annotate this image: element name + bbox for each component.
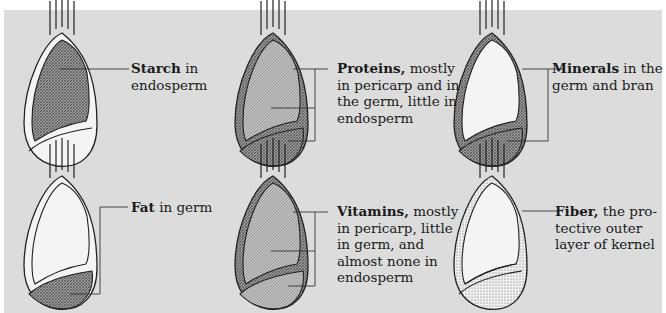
label-proteins-bold: Proteins, — [337, 60, 405, 76]
label-starch-bold: Starch — [131, 60, 181, 76]
label-fat-bold: Fat — [131, 199, 155, 215]
label-fiber-line: tective outer — [555, 220, 642, 236]
label-starch: Starch in endosperm — [131, 60, 207, 93]
label-starch-line: in — [181, 60, 198, 76]
label-minerals: Minerals in the germ and bran — [552, 60, 663, 93]
label-minerals-line: in the — [619, 60, 663, 76]
label-fat: Fat in germ — [131, 199, 212, 216]
label-vitamins-line: mostly — [409, 203, 459, 219]
label-starch-line: endosperm — [131, 77, 207, 93]
kernel-proteins — [235, 0, 328, 166]
label-vitamins-line: in germ, and — [337, 236, 424, 252]
label-minerals-bold: Minerals — [552, 60, 619, 76]
label-proteins-line: endosperm — [337, 110, 413, 126]
label-proteins-line: in pericarp and in — [337, 77, 459, 93]
kernel-starch — [24, 0, 129, 166]
label-vitamins-bold: Vitamins, — [337, 203, 409, 219]
label-fiber-line: layer of kernel — [555, 236, 655, 252]
label-fiber-line: the pro- — [599, 203, 657, 219]
label-vitamins-line: in pericarp, little — [337, 220, 453, 236]
label-vitamins: Vitamins, mostly in pericarp, little in … — [337, 203, 458, 286]
label-vitamins-line: endosperm — [337, 269, 413, 285]
kernel-minerals — [454, 0, 564, 166]
label-fiber-bold: Fiber, — [555, 203, 599, 219]
label-vitamins-line: almost none in — [337, 253, 438, 269]
label-fiber: Fiber, the pro- tective outer layer of k… — [555, 203, 657, 253]
kernel-diagrams — [0, 0, 666, 313]
label-fat-line: in germ — [155, 199, 212, 215]
label-proteins-line: mostly — [405, 60, 455, 76]
label-minerals-line: germ and bran — [552, 77, 654, 93]
label-proteins: Proteins, mostly in pericarp and in the … — [337, 60, 459, 126]
label-proteins-line: the germ, little in — [337, 93, 457, 109]
